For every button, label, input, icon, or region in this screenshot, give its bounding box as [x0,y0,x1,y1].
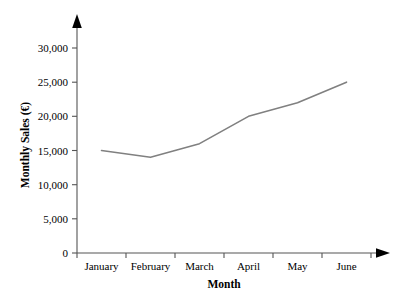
x-tick-label-may: May [287,260,308,272]
y-axis-title: Monthly Sales (€) [19,102,32,188]
chart-canvas: 0 5,000 10,000 15,000 20,000 25,000 30,0… [0,0,410,306]
y-tick-label-20000: 20,000 [38,110,69,122]
y-tick-label-10000: 10,000 [38,179,69,191]
x-tick-label-june: June [336,260,356,272]
x-tick-label-february: February [131,260,171,272]
x-tick-label-january: January [84,260,119,272]
x-tick-label-march: March [185,260,214,272]
x-axis-title: Month [207,278,241,290]
x-tick-label-april: April [237,260,260,272]
y-tick-label-30000: 30,000 [38,42,69,54]
y-tick-label-5000: 5,000 [43,213,68,225]
y-tick-label-0: 0 [63,247,69,259]
y-tick-label-15000: 15,000 [38,145,69,157]
line-chart: 0 5,000 10,000 15,000 20,000 25,000 30,0… [0,0,410,306]
y-tick-label-25000: 25,000 [38,76,69,88]
